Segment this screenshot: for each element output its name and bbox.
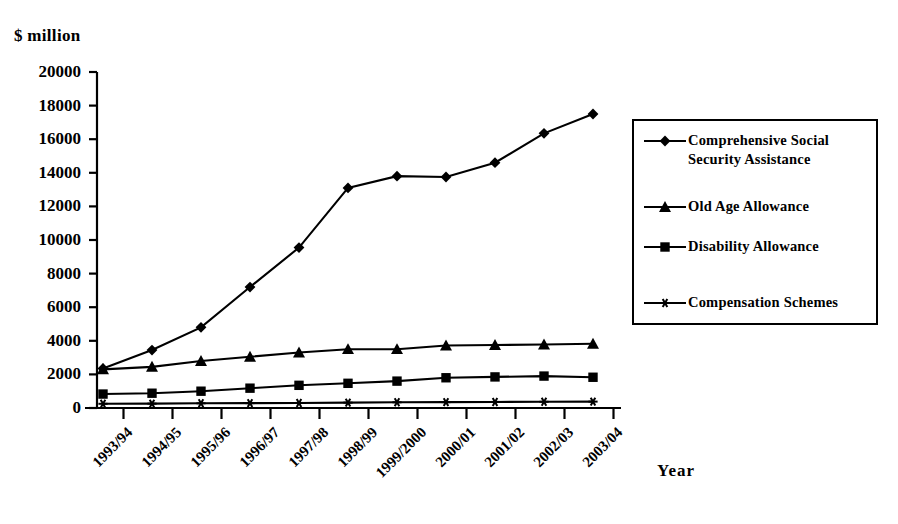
y-axis-tick-label: 8000 <box>3 265 81 282</box>
y-axis-tick-label: 14000 <box>3 164 81 181</box>
square-marker <box>588 373 597 382</box>
data-point-square <box>294 381 303 390</box>
y-axis-tick-label: 2000 <box>3 365 81 382</box>
data-point-diamond <box>147 345 158 356</box>
data-point-square <box>392 376 401 385</box>
diamond-marker <box>490 157 501 168</box>
data-point-square <box>588 373 597 382</box>
y-axis-tick-label: 20000 <box>3 63 81 80</box>
data-point-square <box>98 389 107 398</box>
y-axis-tick-label: 16000 <box>3 130 81 147</box>
data-point-square <box>539 371 548 380</box>
data-point-star <box>294 399 303 407</box>
diamond-marker <box>392 171 403 182</box>
square-marker <box>294 381 303 390</box>
data-point-diamond <box>539 128 550 139</box>
data-point-diamond <box>392 171 403 182</box>
data-point-square <box>660 242 669 251</box>
y-axis-tick-label: 4000 <box>3 332 81 349</box>
data-point-square <box>343 379 352 388</box>
y-axis-tick-label: 6000 <box>3 298 81 315</box>
series-2 <box>98 371 597 398</box>
square-marker <box>660 242 669 251</box>
data-point-star <box>539 398 548 406</box>
diamond-marker <box>588 109 599 120</box>
data-point-star <box>660 299 669 307</box>
square-marker <box>343 379 352 388</box>
square-marker <box>245 383 254 392</box>
square-marker <box>98 389 107 398</box>
legend-item[interactable]: Compensation Schemes <box>642 293 838 312</box>
data-point-star <box>392 398 401 406</box>
square-icon <box>642 239 688 255</box>
legend-item-label: Compensation Schemes <box>688 293 838 312</box>
data-point-star <box>588 398 597 406</box>
legend-item[interactable]: Old Age Allowance <box>642 197 809 216</box>
data-point-star <box>490 398 499 406</box>
data-point-star <box>98 400 107 408</box>
data-point-diamond <box>441 172 452 183</box>
square-marker <box>392 376 401 385</box>
legend-item[interactable]: Disability Allowance <box>642 237 819 256</box>
y-axis-tick-label: 18000 <box>3 97 81 114</box>
data-point-square <box>147 389 156 398</box>
data-point-square <box>490 372 499 381</box>
legend-item[interactable]: Comprehensive Social Security Assistance <box>642 131 829 169</box>
series-3 <box>98 398 597 408</box>
star-icon <box>642 295 688 311</box>
square-marker <box>490 372 499 381</box>
diamond-marker <box>441 172 452 183</box>
data-point-square <box>441 373 450 382</box>
legend-item-label: Comprehensive Social Security Assistance <box>688 131 829 169</box>
data-point-square <box>245 383 254 392</box>
diamond-marker <box>660 136 671 147</box>
data-point-star <box>441 398 450 406</box>
legend-item-label: Old Age Allowance <box>688 197 809 216</box>
series-1 <box>97 338 599 374</box>
diamond-icon <box>642 133 688 149</box>
diamond-marker <box>539 128 550 139</box>
triangle-icon <box>642 199 688 215</box>
square-marker <box>196 387 205 396</box>
legend-item-label: Disability Allowance <box>688 237 819 256</box>
y-axis-tick-label: 12000 <box>3 197 81 214</box>
square-marker <box>539 371 548 380</box>
data-point-star <box>147 400 156 408</box>
data-point-star <box>343 399 352 407</box>
data-point-diamond <box>490 157 501 168</box>
x-axis-title: Year <box>657 461 695 481</box>
data-point-square <box>196 387 205 396</box>
data-point-diamond <box>588 109 599 120</box>
series-line <box>103 114 593 369</box>
square-marker <box>441 373 450 382</box>
series-0 <box>98 109 599 374</box>
chart-legend: Comprehensive Social Security Assistance… <box>632 119 878 325</box>
data-point-diamond <box>660 136 671 147</box>
y-axis-tick-label: 10000 <box>3 231 81 248</box>
line-chart: $ million 200001800016000140001200010000… <box>0 0 898 524</box>
diamond-marker <box>147 345 158 356</box>
data-point-star <box>196 399 205 407</box>
square-marker <box>147 389 156 398</box>
data-point-star <box>245 399 254 407</box>
y-axis-tick-label: 0 <box>3 399 81 416</box>
